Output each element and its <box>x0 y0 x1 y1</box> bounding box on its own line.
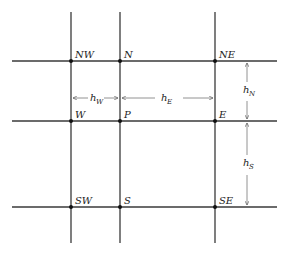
svg-text:S: S <box>249 163 254 171</box>
node-label-nw: NW <box>74 49 95 60</box>
svg-text:W: W <box>96 98 104 106</box>
node-label-n: N <box>123 49 134 60</box>
node-sw-dot <box>69 205 73 209</box>
dimension-h-e: h E <box>122 92 213 106</box>
node-se-dot <box>213 205 217 209</box>
node-e-dot <box>213 119 217 123</box>
grid-stencil-diagram: NW N NE W P E SW S SE h W h E h N h S <box>0 0 286 255</box>
node-ne-dot <box>213 59 217 63</box>
node-w-dot <box>69 119 73 123</box>
svg-text:N: N <box>248 90 256 98</box>
dimension-h-n: h N <box>243 63 256 119</box>
node-label-sw: SW <box>75 195 93 206</box>
node-label-se: SE <box>219 195 234 206</box>
node-label-p: P <box>123 109 131 120</box>
node-s-dot <box>118 205 122 209</box>
node-label-ne: NE <box>218 49 236 60</box>
dimension-h-s: h S <box>243 123 254 205</box>
node-label-e: E <box>218 109 227 120</box>
svg-text:E: E <box>166 98 172 106</box>
node-label-s: S <box>124 195 131 206</box>
node-p-dot <box>118 119 122 123</box>
node-nw-dot <box>69 59 73 63</box>
node-label-w: W <box>75 109 86 120</box>
dimension-h-w: h W <box>73 92 118 106</box>
node-dots <box>69 59 217 209</box>
node-n-dot <box>118 59 122 63</box>
